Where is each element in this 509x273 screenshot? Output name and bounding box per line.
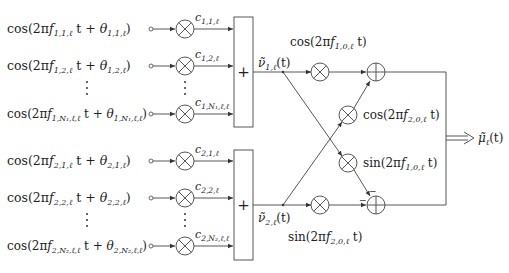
carrier-label-sin1: sin(2πf1,0,ℓ t) <box>363 156 437 172</box>
summer-block-1: + <box>234 17 253 127</box>
input-signal-label: cos(2πf1,N₁,ℓ,ℓ t + θ1,N₁,ℓ,ℓ) <box>7 106 147 123</box>
coefficient-label: c2,1,ℓ <box>195 143 219 158</box>
adder-2 <box>367 196 385 214</box>
input-terminal <box>149 244 153 248</box>
multiplier-icon <box>176 20 194 38</box>
adder-1 <box>367 63 385 81</box>
ellipsis-dots <box>86 81 88 95</box>
input-branches: cos(2πf1,1,ℓ t + θ1,1,ℓ)c1,1,ℓcos(2πf1,2… <box>7 11 233 255</box>
input-signal-label: cos(2πf1,1,ℓ t + θ1,1,ℓ) <box>7 21 131 38</box>
input-terminal <box>149 112 153 116</box>
input-branch-in-1-2: cos(2πf1,2,ℓ t + θ1,2,ℓ)c1,2,ℓ <box>7 48 233 75</box>
ellipsis-dots <box>184 81 186 95</box>
coefficient-label: c1,2,ℓ <box>195 48 219 63</box>
input-terminal <box>149 196 153 200</box>
output-arrow <box>446 132 474 144</box>
ellipsis-dots <box>86 213 88 227</box>
wire-nu1-to-sin-mult <box>283 72 342 156</box>
input-terminal <box>149 27 153 31</box>
input-branch-in-2-1: cos(2πf2,1,ℓ t + θ2,1,ℓ)c2,1,ℓ <box>7 143 233 170</box>
input-branch-in-1-N: cos(2πf1,N₁,ℓ,ℓ t + θ1,N₁,ℓ,ℓ)c1,N₁,ℓ,ℓ <box>7 96 233 123</box>
signal-label-nu1: ν̃1,ℓ(t) <box>258 56 290 72</box>
input-signal-label: cos(2πf2,1,ℓ t + θ2,1,ℓ) <box>7 153 131 170</box>
input-terminal <box>149 64 153 68</box>
summer-plus-2: + <box>237 196 250 214</box>
multiplier-sin1-icon <box>339 154 357 172</box>
wire-sin-mult-to-adder2 <box>354 170 370 196</box>
input-signal-label: cos(2πf2,2,ℓ t + θ2,2,ℓ) <box>7 190 131 207</box>
summer-block-2: + <box>234 150 253 260</box>
coefficient-label: c1,1,ℓ <box>195 11 219 26</box>
summer-plus-1: + <box>237 63 250 81</box>
input-terminal <box>149 159 153 163</box>
signal-flow-diagram: cos(2πf1,1,ℓ t + θ1,1,ℓ)c1,1,ℓcos(2πf1,2… <box>0 0 509 273</box>
input-branch-in-2-2: cos(2πf2,2,ℓ t + θ2,2,ℓ)c2,2,ℓ <box>7 180 233 207</box>
mixer-network <box>253 72 446 205</box>
multiplier-icon <box>176 57 194 75</box>
multiplier-icon <box>176 237 194 255</box>
multiplier-icon <box>176 152 194 170</box>
junction-node-2 <box>282 204 284 206</box>
input-branch-in-1-1: cos(2πf1,1,ℓ t + θ1,1,ℓ)c1,1,ℓ <box>7 11 233 38</box>
multiplier-icon <box>176 189 194 207</box>
input-signal-label: cos(2πf1,2,ℓ t + θ1,2,ℓ) <box>7 58 131 75</box>
coefficient-label: c2,N₂,ℓ,ℓ <box>195 228 230 243</box>
input-signal-label: cos(2πf2,N₂,ℓ,ℓ t + θ2,N₂,ℓ,ℓ) <box>7 238 147 255</box>
wire-cos-mult-to-adder1 <box>354 81 370 108</box>
ellipsis-dots <box>184 213 186 227</box>
coefficient-label: c1,N₁,ℓ,ℓ <box>195 96 230 111</box>
multiplier-cos1-icon <box>311 63 329 81</box>
adder2-minus-left: − <box>359 195 367 205</box>
carrier-label-cos2: cos(2πf2,0,ℓ t) <box>363 108 440 124</box>
junction-node-1 <box>282 71 284 73</box>
wire-nu2-to-cos-mult <box>283 122 342 205</box>
carrier-label-cos1: cos(2πf1,0,ℓ t) <box>290 35 367 51</box>
multiplier-cos2-icon <box>339 106 357 124</box>
multiplier-sin2-icon <box>311 196 329 214</box>
signal-label-nu2: ν̃2,ℓ(t) <box>258 211 290 227</box>
multiplier-icon <box>176 105 194 123</box>
input-branch-in-2-N: cos(2πf2,N₂,ℓ,ℓ t + θ2,N₂,ℓ,ℓ)c2,N₂,ℓ,ℓ <box>7 228 233 255</box>
adder2-minus-top: − <box>369 186 377 196</box>
output-label-mu: μ̃ℓ(t) <box>478 131 503 147</box>
carrier-label-sin2: sin(2πf2,0,ℓ t) <box>288 230 362 246</box>
coefficient-label: c2,2,ℓ <box>195 180 219 195</box>
